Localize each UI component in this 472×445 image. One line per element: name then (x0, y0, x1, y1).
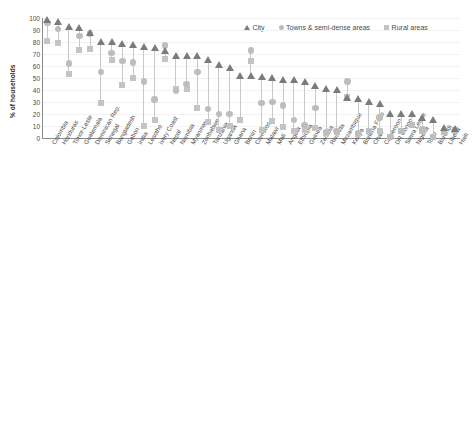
rural-marker (269, 118, 275, 124)
city-marker (86, 29, 94, 36)
y-axis-label-top: % of households (9, 65, 16, 119)
data-group (310, 18, 321, 138)
data-group (278, 18, 289, 138)
data-group (353, 18, 364, 138)
city-marker (97, 38, 105, 45)
rural-marker (55, 40, 61, 46)
data-group (138, 18, 149, 138)
data-group (203, 18, 214, 138)
towns-marker (173, 88, 180, 95)
data-group (439, 18, 450, 138)
data-group (149, 18, 160, 138)
city-marker (161, 47, 169, 54)
data-group (213, 18, 224, 138)
city-marker (75, 24, 83, 31)
towns-marker (66, 60, 73, 67)
data-group (321, 18, 332, 138)
city-marker (172, 52, 180, 59)
city-marker (279, 76, 287, 83)
rural-marker (216, 127, 222, 133)
data-group (374, 18, 385, 138)
towns-marker (216, 111, 223, 118)
city-marker (258, 73, 266, 80)
towns-marker (183, 81, 190, 88)
chart-top: % of households CityTowns & semi-dense a… (0, 0, 472, 225)
city-marker (118, 40, 126, 47)
towns-marker (119, 58, 126, 65)
towns-marker (333, 128, 340, 135)
connector-stem (358, 98, 359, 134)
y-axis-tick: 10 (33, 123, 40, 130)
data-group (63, 18, 74, 138)
city-marker (301, 78, 309, 85)
towns-marker (409, 122, 416, 129)
plot-area-top: 0102030405060708090100ColombiaHondurasTi… (42, 18, 460, 138)
city-marker (354, 95, 362, 102)
rural-marker (66, 71, 72, 77)
city-marker (418, 114, 426, 121)
rural-marker (109, 57, 115, 63)
city-marker (290, 76, 298, 83)
city-marker (43, 16, 51, 23)
rural-marker (119, 82, 125, 88)
towns-marker (280, 102, 287, 109)
city-marker (343, 94, 351, 101)
city-marker (440, 124, 448, 131)
towns-marker (194, 69, 201, 76)
city-marker (386, 110, 394, 117)
city-marker (129, 41, 137, 48)
towns-marker (366, 129, 373, 136)
towns-marker (419, 126, 426, 133)
rural-marker (141, 123, 147, 129)
rural-marker (291, 128, 297, 134)
connector-stem (197, 55, 198, 108)
rural-marker (312, 125, 318, 131)
y-axis-tick: 0 (36, 135, 40, 142)
towns-marker (248, 47, 255, 54)
data-group (396, 18, 407, 138)
rural-marker (377, 128, 383, 134)
data-group (428, 18, 439, 138)
data-group (128, 18, 139, 138)
city-marker (451, 125, 459, 132)
connector-stem (218, 65, 219, 130)
city-marker (54, 18, 62, 25)
connector-stem (68, 26, 69, 74)
data-group (160, 18, 171, 138)
rural-marker (87, 46, 93, 52)
y-axis-tick: 50 (33, 75, 40, 82)
y-axis-tick: 70 (33, 51, 40, 58)
data-group (342, 18, 353, 138)
city-marker (140, 43, 148, 50)
towns-marker (291, 117, 298, 124)
towns-marker (108, 50, 115, 57)
towns-marker (76, 33, 83, 40)
rural-marker (248, 58, 254, 64)
y-axis-tick: 60 (33, 63, 40, 70)
y-axis-tick: 40 (33, 87, 40, 94)
rural-marker (259, 127, 265, 133)
data-group (181, 18, 192, 138)
connector-stem (240, 76, 241, 120)
data-group (117, 18, 128, 138)
towns-marker (226, 111, 233, 118)
towns-marker (141, 78, 148, 85)
towns-marker (376, 114, 383, 121)
city-marker (311, 82, 319, 89)
towns-marker (301, 122, 308, 129)
towns-marker (312, 105, 319, 112)
chart-bottom: % of households CitiesTowns & semi-dense… (0, 225, 472, 445)
rural-marker (237, 117, 243, 123)
towns-marker (205, 106, 212, 113)
data-group (417, 18, 428, 138)
rural-marker (98, 100, 104, 106)
towns-marker (98, 69, 105, 76)
city-marker (193, 52, 201, 59)
connector-stem (326, 89, 327, 133)
rural-marker (130, 75, 136, 81)
data-group (256, 18, 267, 138)
towns-marker (55, 26, 62, 33)
city-marker (247, 72, 255, 79)
data-group (224, 18, 235, 138)
connector-stem (122, 43, 123, 85)
